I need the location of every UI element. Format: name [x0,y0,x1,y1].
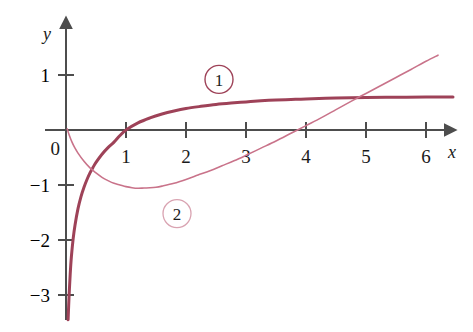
y-axis-label: y [41,24,51,44]
curve-2-tag: 2 [163,200,191,228]
x-axis-label: x [447,142,456,162]
x-tick-label: 1 [121,146,131,167]
y-tick-label: 1 [41,65,51,86]
y-tick-labels: 1 −1 −2 −3 [30,65,50,306]
graph-figure: 1 2 3 4 5 6 1 −1 −2 −3 0 x y 1 2 [0,0,473,332]
y-tick-label: −1 [30,175,50,196]
axes [45,28,445,320]
curve-1-tag-label: 1 [215,71,224,90]
x-tick-labels: 1 2 3 4 5 6 [121,146,431,167]
x-tick-label: 6 [421,146,431,167]
y-tick-label: −3 [30,285,50,306]
origin-label: 0 [51,138,61,159]
x-tick-label: 5 [361,146,371,167]
curve-2-path [67,55,438,188]
curve-2-tag-label: 2 [173,205,182,224]
x-tick-label: 4 [301,146,311,167]
curves [67,55,453,320]
curve-1-tag: 1 [205,65,233,93]
x-tick-label: 2 [181,146,191,167]
plot-canvas: 1 2 3 4 5 6 1 −1 −2 −3 0 x y 1 2 [0,0,473,332]
y-tick-label: −2 [30,230,50,251]
